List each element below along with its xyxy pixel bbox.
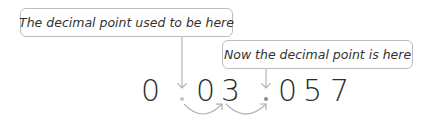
old-decimal-position-callout: The decimal point used to be here xyxy=(20,8,233,37)
digit-5: 5 xyxy=(303,74,322,108)
old-decimal-position-label: The decimal point used to be here xyxy=(19,15,234,30)
digit-3: 3 xyxy=(221,74,240,108)
new-decimal-position-label: Now the decimal point is here xyxy=(224,47,411,62)
digit-6: 7 xyxy=(330,74,349,108)
digit-2: 0 xyxy=(196,74,215,108)
new-decimal-point xyxy=(264,97,268,101)
new-decimal-position-callout: Now the decimal point is here xyxy=(222,40,413,69)
digit-1: 0 xyxy=(141,74,160,108)
digit-4: 0 xyxy=(278,74,297,108)
old-decimal-point xyxy=(180,97,184,101)
